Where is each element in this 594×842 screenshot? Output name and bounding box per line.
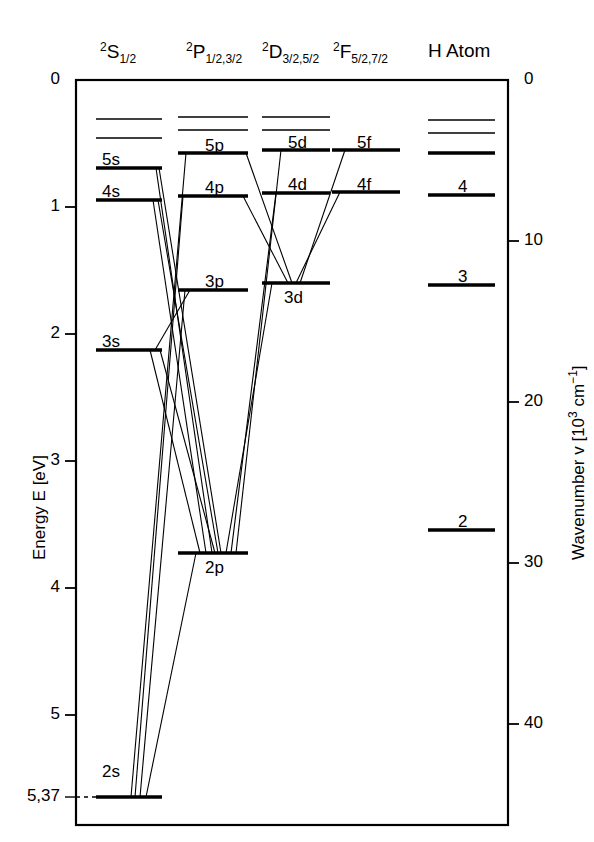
label-level-4d: 4d (288, 175, 307, 195)
t-2p-2s (146, 553, 196, 797)
t-2p-3d (226, 283, 272, 553)
label-level-h-4: 4 (458, 177, 467, 197)
left-tick-label-1: 1 (51, 196, 60, 216)
right-tick-label-20: 20 (524, 391, 543, 411)
label-level-4p: 4p (205, 178, 224, 198)
label-level-3d: 3d (284, 288, 303, 308)
t-5p-2s (131, 153, 186, 797)
left-tick-label-0: 0 (51, 69, 60, 89)
label-level-5f: 5f (357, 133, 371, 153)
t-3s-2p-b (160, 350, 215, 553)
right-tick-label-10: 10 (524, 230, 543, 250)
t-2p-5d (236, 150, 281, 553)
left-axis-title: Energy E [eV] (30, 455, 50, 560)
label-level-3s: 3s (102, 332, 120, 352)
t-2p-3s (150, 350, 200, 553)
t-2p-5s (156, 168, 212, 553)
left-tick-label-2: 2 (51, 323, 60, 343)
left-tick-label-5,37: 5,37 (27, 786, 60, 806)
right-axis-title: Wavenumber v [103 cm−1] (566, 365, 589, 560)
header-d: 2D3/2,5/2 (262, 40, 319, 66)
t-3d-5p (246, 153, 292, 283)
label-level-5s: 5s (102, 150, 120, 170)
label-level-2s: 2s (102, 762, 120, 782)
label-level-5p: 5p (205, 136, 224, 156)
header-p: 2P1/2,3/2 (186, 40, 242, 66)
label-level-2p: 2p (205, 558, 224, 578)
t-4p-2s (135, 196, 183, 797)
label-level-5d: 5d (288, 133, 307, 153)
right-tick-label-30: 30 (524, 552, 543, 572)
right-tick-label-40: 40 (524, 713, 543, 733)
t-3d-4f (296, 192, 340, 283)
header-s: 2S1/2 (100, 40, 136, 66)
header-h-atom: H Atom (428, 40, 490, 62)
diagram-svg (0, 0, 594, 842)
header-f: 2F5/2,7/2 (333, 40, 388, 66)
label-level-h-2: 2 (458, 512, 467, 532)
label-level-3p: 3p (205, 272, 224, 292)
t-3p-3s-a (155, 290, 190, 350)
label-level-4s: 4s (102, 182, 120, 202)
left-tick-label-3: 3 (51, 450, 60, 470)
t-3d-5f (300, 150, 345, 283)
left-tick-label-4: 4 (51, 577, 60, 597)
label-level-4f: 4f (357, 175, 371, 195)
right-tick-label-0: 0 (524, 69, 533, 89)
left-tick-label-5: 5 (51, 704, 60, 724)
figure-canvas: 2S1/2 2P1/2,3/2 2D3/2,5/2 2F5/2,7/2 H At… (0, 0, 594, 842)
t-2p-4s (153, 200, 206, 553)
label-level-h-3: 3 (458, 267, 467, 287)
